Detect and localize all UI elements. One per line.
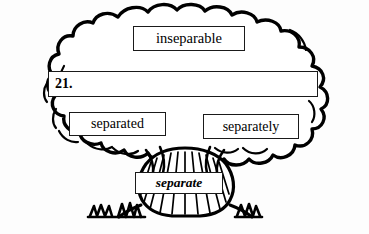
word-box-separated[interactable]: separated: [69, 112, 166, 136]
item-number-label: 21.: [55, 77, 73, 91]
worksheet-diagram: inseparable 21. separated separately sep…: [0, 0, 369, 234]
word-label-inseparable: inseparable: [156, 31, 222, 46]
word-label-separately: separately: [223, 120, 280, 134]
answer-blank-box[interactable]: 21.: [48, 71, 318, 97]
root-word-box[interactable]: separate: [135, 172, 223, 194]
root-word-label: separate: [156, 176, 203, 190]
word-label-separated: separated: [91, 117, 144, 131]
word-box-inseparable[interactable]: inseparable: [133, 26, 245, 51]
word-box-separately[interactable]: separately: [203, 114, 299, 139]
